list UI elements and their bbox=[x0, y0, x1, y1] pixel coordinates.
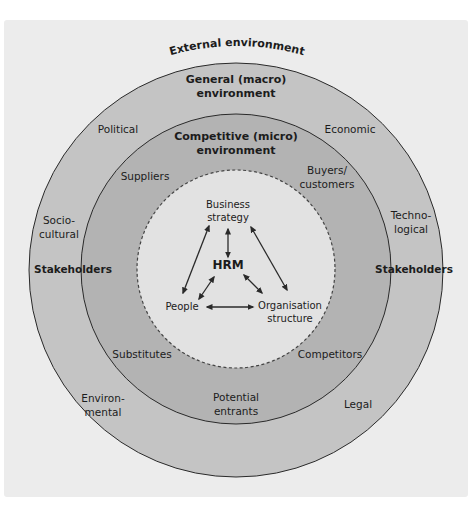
label-line: Business bbox=[206, 198, 250, 211]
factor-technological: Techno- logical bbox=[391, 208, 432, 236]
label-line: entrants bbox=[213, 404, 259, 418]
factor-sociocultural: Socio- cultural bbox=[39, 213, 79, 241]
label-line: Organisation bbox=[258, 299, 322, 312]
node-organisation-structure: Organisation structure bbox=[258, 299, 322, 325]
factor-legal: Legal bbox=[344, 397, 372, 411]
force-potential-entrants: Potential entrants bbox=[213, 390, 259, 418]
label-line: strategy bbox=[206, 211, 250, 224]
stakeholders-left: Stakeholders bbox=[34, 262, 112, 276]
force-substitutes: Substitutes bbox=[112, 347, 171, 361]
factor-political: Political bbox=[98, 122, 138, 136]
heading-line: General (macro) bbox=[186, 73, 287, 87]
label-line: Environ- bbox=[81, 391, 124, 405]
factor-economic: Economic bbox=[325, 122, 376, 136]
external-environment-title: External environment bbox=[168, 36, 306, 58]
label-line: Techno- bbox=[391, 208, 432, 222]
label-line: structure bbox=[258, 312, 322, 325]
node-hrm: HRM bbox=[212, 258, 243, 272]
heading-line: environment bbox=[186, 87, 287, 101]
force-competitors: Competitors bbox=[298, 347, 362, 361]
label-line: Buyers/ bbox=[300, 163, 355, 177]
force-suppliers: Suppliers bbox=[121, 169, 170, 183]
heading-line: Competitive (micro) bbox=[174, 130, 298, 144]
label-line: Socio- bbox=[39, 213, 79, 227]
node-business-strategy: Business strategy bbox=[206, 198, 250, 224]
label-line: mental bbox=[81, 405, 124, 419]
label-line: cultural bbox=[39, 227, 79, 241]
stakeholders-right: Stakeholders bbox=[375, 262, 453, 276]
general-environment-heading: General (macro) environment bbox=[186, 73, 287, 101]
force-buyers-customers: Buyers/ customers bbox=[300, 163, 355, 191]
label-line: customers bbox=[300, 177, 355, 191]
node-people: People bbox=[165, 300, 198, 314]
heading-line: environment bbox=[174, 144, 298, 158]
label-line: Potential bbox=[213, 390, 259, 404]
label-line: logical bbox=[391, 222, 432, 236]
factor-environmental: Environ- mental bbox=[81, 391, 124, 419]
competitive-environment-heading: Competitive (micro) environment bbox=[174, 130, 298, 158]
